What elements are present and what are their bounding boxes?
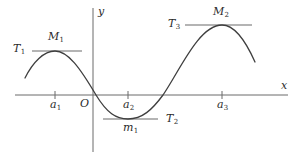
tangent-label-T3-sub: 3 xyxy=(176,23,180,31)
graph-canvas xyxy=(0,0,301,159)
origin-label: O xyxy=(80,98,89,109)
tangent-label-T3: T3 xyxy=(168,18,180,29)
max-label-M2: M2 xyxy=(213,6,229,17)
tick-label-a1: a1 xyxy=(50,99,61,110)
tick-label-a1-base: a xyxy=(50,98,57,111)
y-axis-label: y xyxy=(98,6,104,17)
tangent-label-T1: T1 xyxy=(13,43,25,54)
tangent-label-T2-sub: 2 xyxy=(174,118,178,126)
tangent-label-T1-base: T xyxy=(13,42,20,55)
max-label-M2-base: M xyxy=(213,5,224,18)
tick-label-a2: a2 xyxy=(123,99,134,110)
max-label-M1-base: M xyxy=(48,30,59,43)
tangent-label-T3-base: T xyxy=(168,17,175,30)
max-label-M1-sub: 1 xyxy=(60,36,64,44)
x-axis-label: x xyxy=(281,80,287,91)
tick-label-a2-sub: 2 xyxy=(130,104,134,112)
max-label-M2-sub: 2 xyxy=(225,11,229,19)
min-label-m1-sub: 1 xyxy=(134,127,138,135)
tick-label-a3-sub: 3 xyxy=(224,104,228,112)
tick-label-a3-base: a xyxy=(217,98,224,111)
tangent-label-T2-base: T xyxy=(166,112,173,125)
tangent-label-T2: T2 xyxy=(166,113,178,124)
min-label-m1-base: m xyxy=(123,121,133,134)
max-label-M1: M1 xyxy=(48,31,64,42)
extrema-graph-figure: y x O a1 a2 a3 T1 M1 m1 T2 T3 M2 xyxy=(0,0,301,159)
tick-label-a1-sub: 1 xyxy=(57,104,61,112)
tangent-label-T1-sub: 1 xyxy=(21,48,25,56)
tick-label-a2-base: a xyxy=(123,98,130,111)
tick-label-a3: a3 xyxy=(217,99,228,110)
min-label-m1: m1 xyxy=(123,122,138,133)
